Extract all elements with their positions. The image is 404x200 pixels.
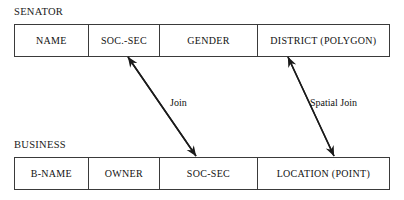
- attribute-cell-soc-sec: SOC.-SEC: [89, 25, 161, 56]
- diagram-canvas: SENATOR NAME SOC.-SEC GENDER DISTRICT (P…: [0, 0, 404, 200]
- attribute-cell-b-name: B-NAME: [15, 158, 89, 189]
- attribute-cell-soc-sec: SOC-SEC: [160, 158, 257, 189]
- attribute-cell-location-point: LOCATION (POINT): [258, 158, 389, 189]
- entity-table-senator: NAME SOC.-SEC GENDER DISTRICT (POLYGON): [14, 24, 390, 57]
- relationship-label-spatial-join: Spatial Join: [310, 97, 357, 108]
- attribute-cell-district-polygon: DISTRICT (POLYGON): [258, 25, 389, 56]
- entity-title-business: BUSINESS: [14, 139, 66, 150]
- attribute-cell-gender: GENDER: [160, 25, 257, 56]
- attribute-cell-owner: OWNER: [89, 158, 161, 189]
- entity-title-senator: SENATOR: [14, 6, 63, 17]
- entity-table-business: B-NAME OWNER SOC-SEC LOCATION (POINT): [14, 157, 390, 190]
- attribute-cell-name: NAME: [15, 25, 89, 56]
- relationship-label-join: Join: [170, 97, 187, 108]
